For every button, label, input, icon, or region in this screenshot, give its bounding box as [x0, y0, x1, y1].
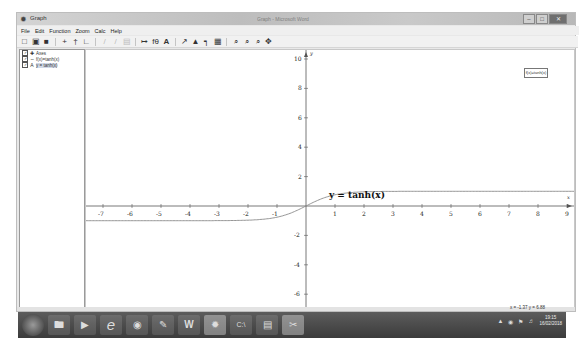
function-list-panel: ✓ ✚ Axes ✓ ∼ f(x)=tanh(x) ✓ A y = tanh(x…: [19, 49, 85, 308]
insert-function-icon[interactable]: +: [60, 37, 69, 47]
insert-tangent-icon[interactable]: †: [71, 37, 80, 47]
x-tick-label: 5: [449, 210, 453, 217]
y-tick-label: 4: [298, 143, 302, 150]
x-tick-label: -4: [185, 210, 191, 217]
taskbar-command-prompt[interactable]: C:\: [230, 315, 252, 335]
x-axis-arrow: [567, 204, 572, 208]
taskbar-notepad[interactable]: ▤: [256, 315, 278, 335]
x-tick-label: 1: [333, 210, 337, 217]
title-bar[interactable]: ✹ Graph Graph - Microsoft Word – □ ✕: [17, 13, 575, 25]
label-icon: A: [29, 62, 35, 68]
open-icon[interactable]: ▣: [31, 37, 40, 47]
x-tick-label: 8: [536, 210, 540, 217]
menu-file[interactable]: File: [21, 28, 30, 34]
taskbar-word[interactable]: W: [178, 315, 200, 335]
menu-bar: File Edit Function Zoom Calc Help: [17, 26, 579, 35]
clock[interactable]: 19:15 16/02/2018: [539, 315, 562, 327]
y-tick-label: -6: [294, 290, 300, 297]
properties-icon[interactable]: ▤: [122, 37, 131, 47]
new-icon[interactable]: □: [20, 37, 29, 47]
legend[interactable]: f(x)=tanh(x): [524, 68, 548, 78]
taskbar-chrome[interactable]: ◉: [126, 315, 148, 335]
tree-item-label: Axes: [36, 51, 46, 56]
x-tick-label: 7: [507, 210, 511, 217]
x-tick-label: -2: [243, 210, 249, 217]
toolbar-separator: [95, 38, 96, 46]
y-axis-name: y: [310, 50, 313, 56]
taskbar-media-player[interactable]: ▶: [74, 315, 96, 335]
y-tick-label: 8: [298, 84, 302, 91]
x-tick-label: -6: [127, 210, 133, 217]
insert-point-series-icon[interactable]: ↗: [180, 37, 189, 47]
insert-trendline-icon[interactable]: ┑: [202, 37, 211, 47]
taskbar-paint[interactable]: ✎: [152, 315, 174, 335]
x-tick-label: 3: [391, 210, 395, 217]
x-tick-label: 9: [565, 210, 569, 217]
toolbar-separator: [135, 38, 136, 46]
status-bar: x = -1.37 y = 6.88: [17, 307, 575, 311]
tree-item-label-element[interactable]: ✓ A y = tanh(x): [20, 62, 84, 68]
taskbar-snipping-tool[interactable]: ✂: [282, 315, 304, 335]
close-button[interactable]: ✕: [549, 14, 567, 24]
function-text-label[interactable]: y = tanh(x): [329, 190, 385, 200]
move-icon[interactable]: ✥: [264, 37, 273, 47]
menu-function[interactable]: Function: [49, 28, 70, 34]
toolbar: □ ▣ ■ + † ∟ / / ▤ ↦ fθ A ↗ ▲ ┑ ▦ ⌕ ⌕ ⌕ ✥: [17, 36, 578, 48]
taskbar-graph[interactable]: ✹: [204, 315, 226, 335]
graph-canvas[interactable]: -7-6-5-4-3-2-1123456789 108642-2-4-6 x y…: [85, 49, 575, 308]
insert-relation-icon[interactable]: fθ: [151, 37, 160, 47]
windows-taskbar: 🖿 ▶ e ◉ ✎ W ✹ C:\ ▤ ✂ ▲ ◉ ⚑ ♬ 19:15 16/0…: [18, 312, 566, 338]
table-icon[interactable]: ▦: [213, 37, 222, 47]
toolbar-separator: [55, 38, 56, 46]
y-tick-label: -2: [294, 231, 300, 238]
minimize-button[interactable]: –: [523, 14, 535, 24]
tree-item-label: y = tanh(x): [36, 63, 57, 68]
window-title: Graph: [30, 15, 47, 21]
insert-shading-icon[interactable]: ↦: [140, 37, 149, 47]
menu-help[interactable]: Help: [111, 28, 122, 34]
delete-icon[interactable]: /: [111, 37, 120, 47]
menu-edit[interactable]: Edit: [35, 28, 44, 34]
tray-arrow-icon[interactable]: ▲: [498, 318, 504, 324]
edit-icon[interactable]: /: [100, 37, 109, 47]
taskbar-file-explorer[interactable]: 🖿: [48, 315, 70, 335]
x-tick-label: 6: [478, 210, 482, 217]
flag-icon[interactable]: ⚑: [518, 318, 523, 325]
menu-calc[interactable]: Calc: [95, 28, 106, 34]
y-tick-label: 2: [298, 173, 302, 180]
x-tick-label: -5: [156, 210, 162, 217]
graph-app-window: ✹ Graph Graph - Microsoft Word – □ ✕ Fil…: [16, 12, 576, 312]
checkbox-label[interactable]: ✓: [22, 62, 28, 68]
volume-icon[interactable]: ♬: [528, 318, 534, 324]
y-tick-label: -4: [294, 261, 300, 268]
x-axis-name: x: [567, 194, 570, 200]
toolbar-separator: [226, 38, 227, 46]
plot-svg: [86, 50, 574, 307]
y-axis-arrow: [304, 52, 308, 57]
zoom-standard-icon[interactable]: ⌕: [253, 37, 262, 47]
network-icon[interactable]: ◉: [508, 318, 513, 325]
system-tray: ▲ ◉ ⚑ ♬ 19:15 16/02/2018: [498, 315, 562, 327]
save-icon[interactable]: ■: [42, 37, 51, 47]
document-title: Graph - Microsoft Word: [257, 16, 309, 22]
y-tick-label: 10: [294, 55, 302, 62]
y-tick-label: 6: [298, 114, 302, 121]
menu-zoom[interactable]: Zoom: [75, 28, 89, 34]
taskbar-internet-explorer[interactable]: e: [100, 315, 122, 335]
x-tick-label: -3: [214, 210, 220, 217]
x-tick-label: -1: [272, 210, 278, 217]
toolbar-separator: [175, 38, 176, 46]
clock-date: 16/02/2018: [539, 321, 562, 327]
maximize-button[interactable]: □: [536, 14, 548, 24]
graph-app-icon: ✹: [20, 15, 27, 24]
zoom-out-icon[interactable]: ⌕: [242, 37, 251, 47]
start-button[interactable]: [22, 314, 44, 336]
insert-label-icon[interactable]: A: [162, 37, 171, 47]
insert-area-icon[interactable]: ▲: [191, 37, 200, 47]
tree-item-label: f(x)=tanh(x): [36, 57, 59, 62]
insert-series-icon[interactable]: ∟: [82, 37, 91, 47]
zoom-in-icon[interactable]: ⌕: [231, 37, 240, 47]
window-controls: – □ ✕: [523, 14, 567, 24]
cursor-coordinates: x = -1.37 y = 6.88: [510, 305, 545, 310]
x-tick-label: 4: [420, 210, 424, 217]
